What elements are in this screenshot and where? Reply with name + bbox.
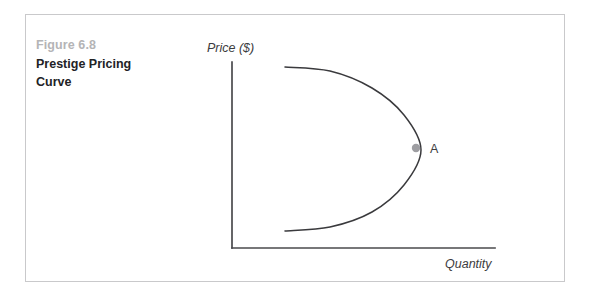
chart-annotations: A [412,142,439,156]
figure-root: Figure 6.8 Prestige Pricing Curve A Pric… [0,0,592,297]
chart-series [285,67,421,231]
prestige-pricing-curve [285,67,421,231]
prestige-pricing-chart: A Price ($) Quantity [0,0,592,297]
chart-axis-labels: Price ($) Quantity [207,41,492,271]
y-axis-label: Price ($) [207,41,254,55]
chart-axes [232,62,495,248]
point-a-marker [412,144,420,152]
point-a-label: A [430,142,439,156]
x-axis-label: Quantity [445,257,492,271]
